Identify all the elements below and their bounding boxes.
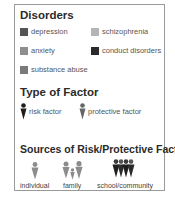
person-dark-icon	[20, 103, 27, 120]
legend-label: risk factor	[29, 107, 62, 116]
factor-type-heading: Type of Factor	[20, 86, 98, 98]
depression-swatch	[20, 28, 28, 36]
source-label-family: family	[63, 182, 81, 189]
group-icon	[111, 159, 137, 179]
legend-item-schizophrenia: schizophrenia	[91, 27, 148, 36]
legend-item-conduct-disorders: conduct disorders	[91, 46, 161, 55]
substance-abuse-swatch	[20, 66, 28, 74]
source-label-school-community: school/community	[97, 182, 153, 189]
family-icon	[62, 161, 84, 180]
person-gray-icon	[79, 103, 86, 120]
source-label-individual: individual	[20, 182, 49, 189]
sources-heading: Sources of Risk/Protective Factors	[20, 143, 175, 155]
legend-item-depression: depression	[20, 27, 68, 36]
legend-item-substance-abuse: substance abuse	[20, 65, 88, 74]
legend-label: protective factor	[88, 107, 141, 116]
conduct-disorders-swatch	[91, 47, 99, 55]
legend-item-protective-factor: protective factor	[79, 103, 141, 120]
disorders-heading: Disorders	[20, 9, 74, 21]
legend-label: schizophrenia	[102, 27, 148, 36]
legend-label: depression	[31, 27, 68, 36]
legend-item-anxiety: anxiety	[20, 46, 55, 55]
legend-label: anxiety	[31, 46, 55, 55]
legend-label: substance abuse	[31, 65, 88, 74]
legend-item-risk-factor: risk factor	[20, 103, 62, 120]
legend-label: conduct disorders	[102, 46, 161, 55]
legend-box: Disorders depression schizophrenia anxie…	[14, 4, 165, 191]
anxiety-swatch	[20, 47, 28, 55]
single-person-icon	[31, 162, 39, 180]
schizophrenia-swatch	[91, 28, 99, 36]
